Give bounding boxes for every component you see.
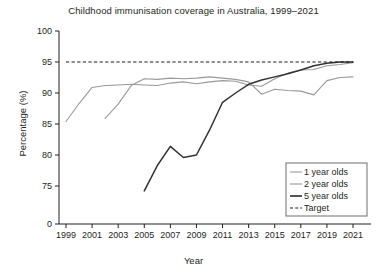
y-tick-label: 100: [37, 26, 52, 36]
y-tick-label-zero: 0: [47, 219, 52, 229]
x-tick-label: 2005: [134, 230, 154, 240]
x-axis-ticks: 1999200120032005200720092011201320152017…: [56, 224, 363, 240]
legend-item-label: Target: [304, 203, 330, 213]
x-tick-label: 2003: [108, 230, 128, 240]
y-tick-label: 95: [42, 57, 52, 67]
y-tick-label: 75: [42, 181, 52, 191]
legend-item-label: 5 year olds: [304, 191, 349, 201]
x-tick-label: 2001: [82, 230, 102, 240]
x-tick-label: 1999: [56, 230, 76, 240]
x-tick-label: 2017: [291, 230, 311, 240]
x-tick-label: 2021: [343, 230, 363, 240]
chart-container: Childhood immunisation coverage in Austr…: [0, 0, 387, 278]
y-axis-ticks: 75808590951000: [37, 26, 59, 229]
x-tick-label: 2011: [213, 230, 232, 240]
x-tick-label: 2007: [160, 230, 180, 240]
x-tick-label: 2015: [265, 230, 285, 240]
y-tick-label: 90: [42, 88, 52, 98]
legend-item-label: 1 year olds: [304, 167, 349, 177]
x-tick-label: 2013: [239, 230, 259, 240]
chart-legend: 1 year olds2 year olds5 year oldsTarget: [286, 163, 367, 216]
series-line: [66, 63, 353, 122]
x-tick-label: 2019: [317, 230, 337, 240]
y-tick-label: 85: [42, 119, 52, 129]
x-tick-label: 2009: [186, 230, 206, 240]
y-tick-label: 80: [42, 150, 52, 160]
plot-area: 75808590951000 1999200120032005200720092…: [0, 0, 387, 278]
legend-item-label: 2 year olds: [304, 179, 349, 189]
